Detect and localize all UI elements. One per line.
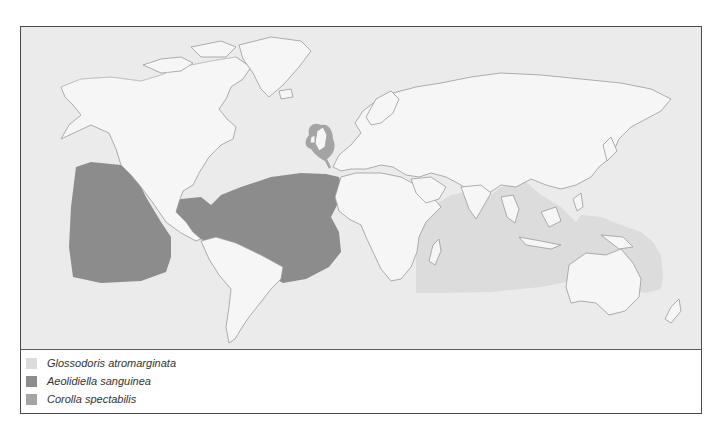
figure-frame: Glossodoris atromarginata Aeolidiella sa… [20, 26, 702, 414]
world-map [21, 27, 701, 350]
swatch-dark-gray-icon [26, 376, 37, 387]
range-aeolidiella-sanguinea [69, 162, 343, 283]
land-australia [566, 249, 641, 315]
legend-label: Aeolidiella sanguinea [47, 375, 151, 387]
land-greenland [239, 37, 311, 97]
legend-item-corolla: Corolla spectabilis [26, 391, 136, 407]
swatch-light-gray-icon [26, 358, 37, 369]
legend-item-aeolidiella: Aeolidiella sanguinea [26, 373, 151, 389]
legend-label: Glossodoris atromarginata [47, 357, 176, 369]
swatch-medium-gray-icon [26, 394, 37, 405]
legend-item-glossodoris: Glossodoris atromarginata [26, 355, 176, 371]
landmasses [61, 37, 681, 343]
legend-label: Corolla spectabilis [47, 393, 136, 405]
map-legend: Glossodoris atromarginata Aeolidiella sa… [21, 350, 701, 413]
